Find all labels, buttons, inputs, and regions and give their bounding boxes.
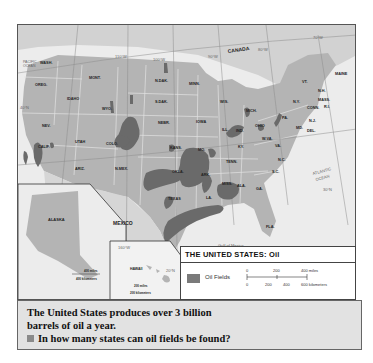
state-label: NEV. — [42, 124, 51, 128]
svg-text:20°N: 20°N — [166, 268, 175, 273]
caption-line-2: barrels of oil a year. — [27, 320, 116, 331]
oil-fields-swatch — [187, 274, 200, 283]
state-label: IDAHO — [67, 97, 79, 101]
state-label: KANS. — [170, 146, 182, 150]
map-title: THE UNITED STATES: Oil — [185, 250, 280, 259]
svg-text:80°W: 80°W — [258, 47, 268, 52]
state-label: CALIF. — [38, 145, 50, 149]
state-label: KY. — [238, 145, 244, 149]
scale-bar: 0 200 400 miles 0 200 400 600 kilometers — [245, 266, 355, 296]
state-label: DEL. — [307, 129, 316, 133]
state-label: MAINE — [335, 72, 348, 76]
svg-text:OCEAN: OCEAN — [23, 64, 36, 68]
hawaii-label: HAWAII — [130, 267, 142, 271]
hawaii-scale-miles: 200 miles — [134, 284, 148, 288]
state-label: N.MEX. — [115, 167, 128, 171]
state-label: NEBR. — [158, 121, 170, 125]
state-label: ALA. — [237, 184, 246, 188]
state-label: TENN. — [226, 160, 237, 164]
svg-text:200: 200 — [265, 282, 272, 287]
alaska-scale-miles: 400 miles — [84, 269, 98, 273]
svg-text:0: 0 — [246, 268, 249, 273]
state-label: WYO. — [102, 107, 112, 111]
caption-question: In how many states can oil fields be fou… — [27, 333, 231, 344]
svg-text:90°W: 90°W — [208, 54, 218, 59]
state-label: LA. — [206, 196, 212, 200]
state-label: IND. — [236, 129, 244, 133]
svg-text:0: 0 — [246, 282, 249, 287]
square-bullet-icon — [27, 335, 34, 342]
state-label: MINN. — [189, 82, 200, 86]
state-label: GA. — [256, 187, 263, 191]
state-label: VT. — [302, 80, 308, 84]
state-label: MO. — [198, 148, 205, 152]
state-label: UTAH — [75, 140, 86, 144]
state-label: VA. — [275, 144, 281, 148]
state-label: WIS. — [220, 100, 228, 104]
state-label: R.I. — [324, 105, 330, 109]
state-label: MISS. — [222, 182, 232, 186]
svg-text:40°N: 40°N — [20, 105, 29, 110]
svg-text:400 miles: 400 miles — [301, 268, 318, 273]
oil-fields-label: Oil Fields — [205, 274, 230, 280]
state-label: ARIZ. — [75, 167, 85, 171]
state-label: N.Y. — [293, 100, 300, 104]
state-label: FLA. — [266, 225, 274, 229]
svg-text:160°W: 160°W — [118, 245, 130, 250]
caption-line-1: The United States produces over 3 billio… — [27, 307, 212, 318]
alaska-scale-km: 400 kilometers — [76, 277, 97, 281]
state-label: MD. — [296, 126, 303, 130]
state-label: OREG. — [35, 83, 47, 87]
state-label: S.DAK. — [155, 100, 168, 104]
state-label: N.H. — [318, 89, 326, 93]
state-label: MICH. — [246, 109, 257, 113]
state-label: ILL. — [222, 128, 229, 132]
state-label: N.C. — [278, 158, 286, 162]
question-text: In how many states can oil fields be fou… — [38, 333, 231, 344]
svg-text:400: 400 — [283, 282, 290, 287]
svg-text:200: 200 — [273, 268, 280, 273]
state-label: WASH. — [40, 61, 52, 65]
state-label: MONT. — [89, 76, 101, 80]
state-label: COLO. — [106, 142, 118, 146]
svg-text:30°N: 30°N — [323, 187, 332, 192]
map-legend: THE UNITED STATES: Oil Oil Fields 0 200 … — [180, 246, 356, 300]
mexico-label: MEXICO — [113, 220, 133, 226]
hawaii-scale-km: 200 kilometers — [130, 291, 151, 295]
state-label: TEXAS — [168, 197, 181, 201]
state-label: ARK. — [201, 173, 210, 177]
state-label: N.DAK. — [155, 79, 168, 83]
state-label: MASS. — [318, 98, 330, 102]
svg-text:100°W: 100°W — [153, 57, 165, 62]
caption-box: The United States produces over 3 billio… — [17, 300, 362, 350]
alaska-label: ALASKA — [48, 217, 65, 222]
svg-text:110°W: 110°W — [115, 54, 127, 59]
state-label: OKLA. — [172, 170, 184, 174]
state-label: OHIO — [255, 124, 265, 128]
state-label: CONN. — [307, 106, 319, 110]
legend-divider — [181, 262, 355, 263]
state-label: S.C. — [272, 170, 279, 174]
state-label: W.VA. — [262, 137, 272, 141]
hawaii-inset: 160°W HAWAII 20°N 200 miles 200 kilomete… — [110, 241, 182, 300]
svg-text:600 kilometers: 600 kilometers — [301, 282, 327, 287]
state-label: IOWA — [196, 120, 206, 124]
state-label: N.J. — [309, 119, 316, 123]
svg-text:70°W: 70°W — [313, 35, 323, 40]
state-label: PA. — [282, 116, 288, 120]
